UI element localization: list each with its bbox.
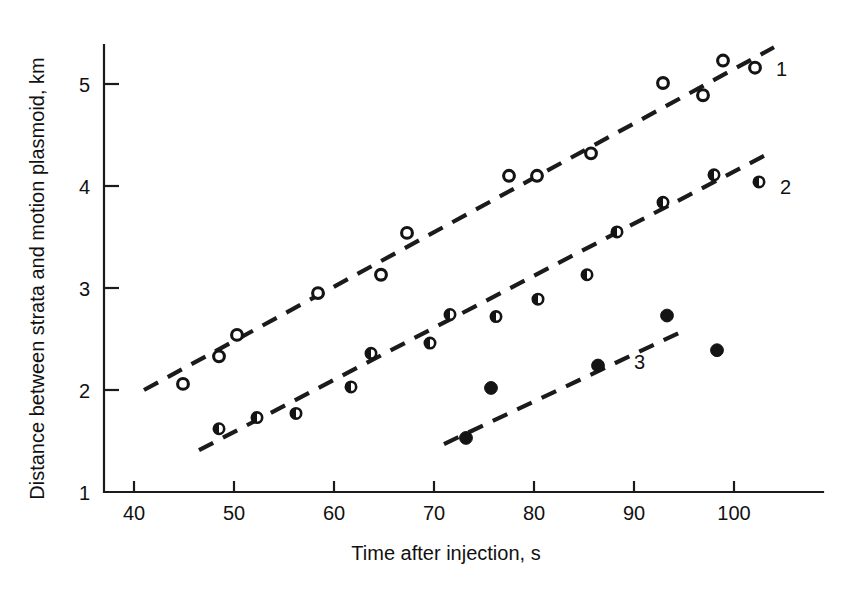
x-tick-label-80: 80 — [523, 502, 545, 524]
scatter-plot: 40506070809010012345 Time after injectio… — [0, 0, 860, 598]
point-1-11 — [718, 55, 729, 66]
point-1-5 — [402, 228, 413, 239]
point-3-0 — [460, 432, 473, 445]
point-1-3 — [313, 288, 324, 299]
point-3-3 — [661, 309, 674, 322]
figure-container: 40506070809010012345 Time after injectio… — [0, 0, 860, 598]
series-1-markers — [178, 55, 761, 389]
point-1-7 — [532, 170, 543, 181]
point-3-1 — [485, 382, 498, 395]
series-label-3: 3 — [634, 351, 645, 373]
x-axis-title: Time after injection, s — [351, 542, 540, 564]
point-3-2 — [592, 359, 605, 372]
x-tick-label-70: 70 — [423, 502, 445, 524]
point-1-2 — [232, 330, 243, 341]
x-tick-label-50: 50 — [223, 502, 245, 524]
y-tick-label-2: 2 — [79, 380, 90, 402]
x-tick-label-40: 40 — [123, 502, 145, 524]
point-1-9 — [658, 78, 669, 89]
point-1-4 — [376, 269, 387, 280]
point-1-1 — [214, 351, 225, 362]
point-1-0 — [178, 378, 189, 389]
point-1-6 — [504, 170, 515, 181]
axis-frame — [104, 45, 823, 492]
series-label-1: 1 — [776, 58, 787, 80]
point-1-8 — [586, 148, 597, 159]
y-axis-title: Distance between strata and motion plasm… — [26, 57, 48, 499]
trend-lines — [144, 47, 774, 450]
data-points — [178, 55, 765, 444]
series-label-2: 2 — [780, 176, 791, 198]
chart-labels: Time after injection, sDistance between … — [26, 57, 791, 564]
x-tick-label-100: 100 — [717, 502, 750, 524]
point-3-4 — [711, 344, 724, 357]
x-tick-label-90: 90 — [623, 502, 645, 524]
y-tick-label-3: 3 — [79, 278, 90, 300]
y-tick-label-5: 5 — [79, 74, 90, 96]
point-1-12 — [750, 62, 761, 73]
y-tick-label-1: 1 — [79, 482, 90, 504]
trend-line-series-2 — [199, 153, 769, 450]
axes: 40506070809010012345 — [79, 45, 823, 524]
x-tick-label-60: 60 — [323, 502, 345, 524]
series-3-markers — [460, 309, 724, 444]
y-tick-label-4: 4 — [79, 176, 90, 198]
trend-line-series-3 — [444, 333, 679, 444]
point-1-10 — [698, 90, 709, 101]
